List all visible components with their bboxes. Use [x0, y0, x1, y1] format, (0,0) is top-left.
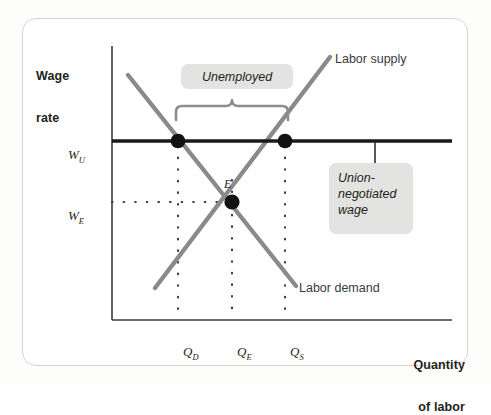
y-tick-we-subscript: E [79, 215, 84, 225]
x-tick-qs-base: Q [290, 344, 299, 359]
point-qd-at-union-wage [171, 134, 186, 149]
x-tick-label-qe: QE [224, 330, 252, 376]
unemployed-brace [176, 100, 288, 120]
union-negotiated-wage-callout: Union- negotiated wage [329, 163, 413, 234]
point-equilibrium-e [224, 194, 239, 209]
x-axis-title-line-1: Quantity [383, 358, 465, 372]
union-callout-line-2: negotiated [338, 186, 413, 202]
x-tick-label-qs: QS [277, 330, 304, 376]
labor-demand-label: Labor demand [299, 281, 380, 295]
unemployed-callout: Unemployed [181, 64, 293, 89]
x-axis-title: Quantity of labor [383, 330, 465, 415]
y-tick-wu-subscript: U [79, 154, 85, 164]
union-callout-line-1: Union- [338, 170, 413, 186]
x-tick-qs-subscript: S [299, 351, 303, 361]
x-tick-qd-subscript: D [192, 351, 198, 361]
labor-supply-curve [155, 57, 330, 288]
x-tick-qe-subscript: E [246, 351, 251, 361]
x-tick-qd-base: Q [183, 344, 192, 359]
y-tick-label-we: WE [55, 194, 84, 240]
y-axis-title-line-2: rate [36, 111, 69, 125]
x-axis-title-line-2: of labor [383, 400, 465, 414]
unemployed-callout-text: Unemployed [202, 70, 272, 84]
y-tick-wu-base: W [68, 147, 79, 162]
x-tick-label-qd: QD [170, 330, 199, 376]
equilibrium-point-label: E [224, 178, 231, 191]
union-callout-line-3: wage [338, 202, 413, 218]
labor-supply-label: Labor supply [335, 52, 407, 66]
x-tick-qe-base: Q [237, 344, 246, 359]
y-axis-title-line-1: Wage [36, 69, 69, 83]
y-tick-label-wu: WU [55, 133, 85, 179]
y-tick-we-base: W [68, 208, 79, 223]
point-qs-at-union-wage [278, 134, 293, 149]
